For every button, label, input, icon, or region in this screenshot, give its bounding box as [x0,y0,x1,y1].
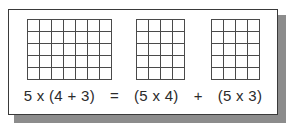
equation-equals-sign: = [104,87,125,104]
grid-cell [64,44,75,55]
grid-cell [173,68,184,79]
screenshot-root: 5 x (4 + 3) = (5 x 4) + (5 x 3) [0,0,293,127]
grid-cell [88,56,99,67]
grid-cell [161,32,172,43]
grid-cell [248,68,259,79]
grid-cell [212,68,223,79]
grid-cell [64,68,75,79]
grid-cell [212,56,223,67]
grid-cell [100,68,111,79]
spacer-equals [112,49,136,50]
spacer-plus [185,49,211,50]
grid-cell [224,32,235,43]
grid-cell [100,20,111,31]
grid-cell [137,68,148,79]
grid-cell [88,44,99,55]
grid-cell [236,20,247,31]
grid-cell [137,32,148,43]
grid-cell [88,20,99,31]
grid-cell [28,56,39,67]
grid-cell [248,20,259,31]
grid-array-5x3 [211,19,260,80]
grid-cell [236,56,247,67]
distributive-property-diagram: 5 x (4 + 3) = (5 x 4) + (5 x 3) [9,10,277,114]
grid-cell [149,32,160,43]
grid-cell [137,44,148,55]
grid-cell [88,68,99,79]
grid-cell [28,68,39,79]
equation-first-product: (5 x 4) [133,87,180,104]
grid-cell [212,32,223,43]
grid-cell [248,32,259,43]
grid-cell [76,32,87,43]
grid-cell [224,20,235,31]
array-model-3 [211,19,260,80]
grid-cell [236,32,247,43]
equation-line: 5 x (4 + 3) = (5 x 4) + (5 x 3) [9,82,277,108]
grid-cell [100,32,111,43]
grid-cell [100,56,111,67]
grid-cell [52,44,63,55]
grid-cell [173,44,184,55]
grid-cell [173,56,184,67]
grid-cell [64,20,75,31]
grid-cell [52,20,63,31]
grid-cell [137,56,148,67]
array-model-1 [27,19,112,80]
grid-cell [149,68,160,79]
grid-cell [64,56,75,67]
grid-cell [137,20,148,31]
grid-cell [212,44,223,55]
grid-cell [161,20,172,31]
equation-plus-sign: + [188,87,209,104]
grid-cell [76,20,87,31]
equation-left-term: 5 x (4 + 3) [23,87,96,104]
grid-cell [149,44,160,55]
grid-cell [76,44,87,55]
grid-cell [64,32,75,43]
grid-cell [76,56,87,67]
grid-cell [28,20,39,31]
grid-cell [52,68,63,79]
grid-cell [52,56,63,67]
grid-cell [149,56,160,67]
grid-array-5x7 [27,19,112,80]
grid-cell [173,32,184,43]
grid-cell [76,68,87,79]
array-model-2 [136,19,185,80]
grid-cell [224,68,235,79]
array-models-row [9,17,277,81]
math-diagram-card: 5 x (4 + 3) = (5 x 4) + (5 x 3) [8,9,278,115]
grid-cell [40,68,51,79]
grid-cell [224,56,235,67]
grid-cell [40,44,51,55]
grid-cell [40,32,51,43]
grid-cell [248,44,259,55]
grid-cell [40,56,51,67]
grid-cell [173,20,184,31]
grid-cell [161,68,172,79]
grid-cell [161,44,172,55]
grid-array-5x4 [136,19,185,80]
grid-cell [224,44,235,55]
equation-second-product: (5 x 3) [217,87,264,104]
grid-cell [28,44,39,55]
grid-cell [40,20,51,31]
grid-cell [212,20,223,31]
grid-cell [149,20,160,31]
grid-cell [52,32,63,43]
grid-cell [236,44,247,55]
grid-cell [28,32,39,43]
grid-cell [236,68,247,79]
grid-cell [88,32,99,43]
grid-cell [100,44,111,55]
grid-cell [248,56,259,67]
grid-cell [161,56,172,67]
